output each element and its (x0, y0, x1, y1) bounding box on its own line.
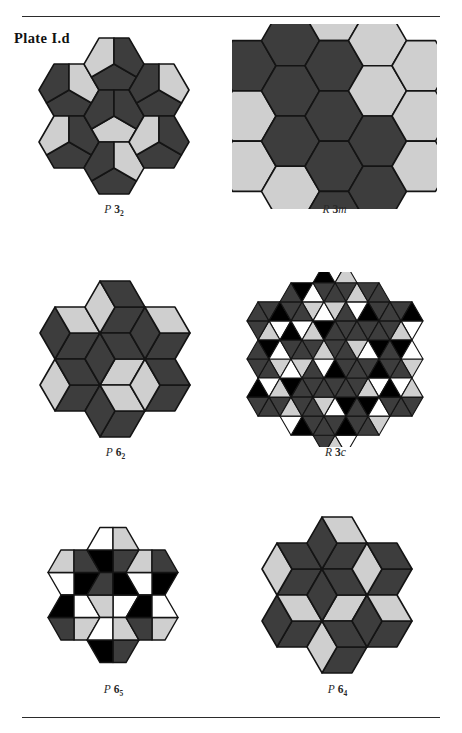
caption-p32-subscript: 2 (120, 209, 124, 218)
caption-p65: P 65 (16, 683, 211, 698)
figure-p65 (16, 508, 211, 683)
caption-p32: P 32 (14, 203, 214, 218)
top-rule (22, 16, 440, 17)
caption-p64: P 64 (240, 683, 435, 698)
caption-r3c-prefix: R (325, 446, 332, 458)
figure-p32 (14, 24, 214, 209)
caption-p62: P 62 (18, 446, 213, 461)
figure-p64-graphic (240, 508, 435, 683)
figure-p62-graphic (18, 272, 213, 447)
caption-p65-subscript: 5 (119, 689, 123, 698)
figure-p62 (18, 272, 213, 447)
caption-p65-prefix: P (104, 683, 111, 695)
figure-r3m-graphic (232, 24, 437, 209)
figure-r3c (238, 272, 433, 447)
caption-p32-prefix: P (104, 203, 111, 215)
figure-r3c-graphic (238, 272, 433, 447)
caption-r3m-prefix: R (323, 203, 330, 215)
caption-p64-subscript: 4 (343, 689, 347, 698)
figure-r3m (232, 24, 437, 209)
caption-p62-prefix: P (106, 446, 113, 458)
figure-p64 (240, 508, 435, 683)
caption-r3c-suffix: c (341, 446, 346, 458)
plate-label: Plate I.d (14, 30, 70, 47)
caption-r3m-suffix: m (338, 203, 346, 215)
caption-r3c: R 3c (238, 446, 433, 458)
bottom-rule (22, 717, 440, 718)
caption-p64-prefix: P (328, 683, 335, 695)
figure-p65-graphic (16, 508, 211, 683)
caption-p62-subscript: 2 (121, 452, 125, 461)
plate-page: Plate I.d P 32 R 3m P 62 R 3c P 65 P 64 (0, 0, 462, 733)
caption-r3m: R 3m (232, 203, 437, 215)
figure-p32-graphic (14, 24, 214, 209)
